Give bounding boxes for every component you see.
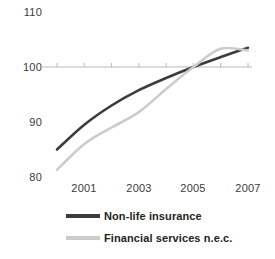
legend-swatch-financial-services [66, 236, 100, 240]
chart-legend: Non-life insurance Financial services n.… [0, 205, 275, 249]
series-group [57, 48, 248, 170]
legend-item-non-life-insurance: Non-life insurance [0, 205, 275, 227]
chart-container: 110 100 90 80 2001 2003 2005 2007 Non-li… [0, 0, 275, 259]
legend-item-financial-services: Financial services n.e.c. [0, 227, 275, 249]
series-line-financial-services [57, 48, 248, 170]
legend-label-financial-services: Financial services n.e.c. [104, 232, 232, 244]
legend-swatch-non-life-insurance [66, 214, 100, 218]
series-line-non-life-insurance [57, 48, 248, 150]
axis-baseline-group [41, 63, 252, 67]
legend-label-non-life-insurance: Non-life insurance [104, 210, 202, 222]
